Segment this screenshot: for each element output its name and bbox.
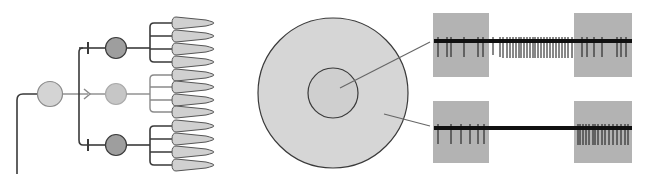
receptor-cell — [172, 17, 214, 29]
receptive-field — [258, 18, 430, 168]
circuit — [17, 17, 214, 174]
center-recording — [433, 13, 632, 77]
receptor-cell — [172, 120, 214, 132]
receptor-cell — [172, 43, 214, 55]
bottom-neuron — [106, 135, 127, 156]
stim-box-after — [574, 13, 632, 77]
middle-neuron — [106, 84, 127, 105]
receptor-cell — [172, 133, 214, 145]
input-neuron — [38, 82, 63, 107]
receptor-cell — [172, 30, 214, 42]
center-region — [308, 68, 358, 118]
receptor-cell — [172, 56, 214, 68]
receptor-cell — [172, 94, 214, 106]
receptor-cell — [172, 146, 214, 158]
receptor-cell — [172, 81, 214, 93]
input-axon — [17, 94, 38, 174]
receptor-cell — [172, 106, 214, 118]
bottom-fanout — [150, 126, 172, 165]
top-neuron — [106, 38, 127, 59]
middle-fanout — [150, 75, 172, 112]
receptor-cells — [172, 17, 214, 171]
receptor-cell — [172, 159, 214, 171]
stim-box-before — [433, 13, 489, 77]
receptor-cell — [172, 69, 214, 81]
surround-recording — [433, 101, 632, 163]
top-fanout — [150, 23, 172, 62]
circuit-diagram — [0, 0, 647, 182]
figure-canvas — [0, 0, 647, 182]
